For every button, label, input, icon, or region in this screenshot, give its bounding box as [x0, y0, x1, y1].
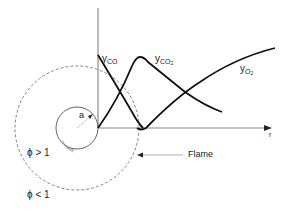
x-axis-label: r	[269, 131, 271, 138]
label-yo2-sub2: 2	[250, 71, 253, 76]
label-yco2-sub2: 2	[171, 61, 174, 66]
flame-label: Flame	[188, 150, 213, 159]
phi-symbol-inner: ϕ	[27, 147, 33, 158]
region-inner-relation: > 1	[35, 147, 49, 158]
label-yo2: yO2	[240, 64, 253, 77]
radius-label: a	[79, 111, 84, 120]
region-outer-relation: < 1	[35, 189, 49, 200]
particle-shading	[62, 140, 74, 152]
label-yco-sub: CO	[107, 58, 118, 65]
label-yco2-sub: CO2	[160, 58, 173, 65]
label-yco2-sub-text: CO	[160, 58, 171, 65]
curve-yco2	[98, 57, 222, 128]
phi-symbol-outer: ϕ	[27, 189, 33, 200]
diagram-canvas	[0, 0, 285, 220]
region-outer-label: ϕ < 1	[27, 190, 50, 200]
label-yco2: yCO2	[155, 54, 173, 67]
region-inner-label: ϕ > 1	[27, 148, 50, 158]
flame-arrowhead-icon	[137, 153, 143, 158]
label-yco: yCO	[102, 54, 118, 65]
label-yo2-sub: O2	[245, 68, 253, 75]
